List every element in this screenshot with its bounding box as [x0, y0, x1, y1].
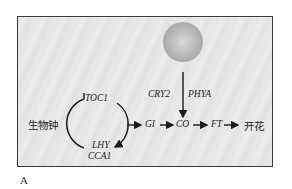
clock-right-arc: [115, 103, 128, 147]
gene-co: CO: [176, 119, 189, 129]
photoreceptor-cry2: CRY2: [148, 89, 170, 99]
gene-cca1: CCA1: [88, 151, 111, 161]
clock-left-arc: [67, 99, 84, 148]
gene-lhy: LHY: [92, 140, 109, 150]
gene-gi: GI: [145, 119, 155, 129]
clock-label: 生物钟: [28, 117, 58, 132]
panel-label: A: [20, 174, 28, 186]
photoreceptor-phya: PHYA: [188, 89, 211, 99]
diagram-arrows: [0, 0, 292, 189]
gene-ft: FT: [211, 119, 222, 129]
flowering-label: 开花: [244, 118, 264, 133]
light-sphere-icon: [163, 22, 203, 62]
gene-toc1: TOC1: [85, 93, 108, 103]
